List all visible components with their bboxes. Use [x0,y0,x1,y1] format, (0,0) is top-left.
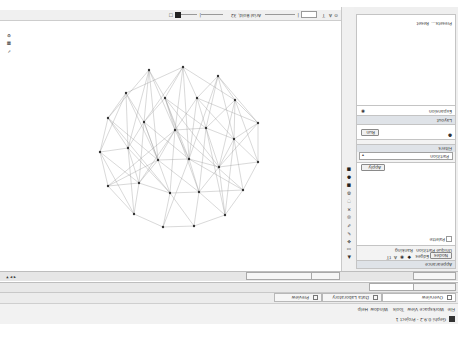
tab-appearance[interactable]: Appearance× [413,272,456,280]
graph-edge[interactable] [170,130,175,193]
graph-node[interactable] [198,191,200,193]
graph-edge[interactable] [163,193,170,227]
graph-node[interactable] [182,66,184,68]
graph-edge[interactable] [134,183,139,214]
pencil-icon[interactable]: ✎ [346,230,351,235]
graph-node[interactable] [125,92,127,94]
filter-combo[interactable]: Partition ▾ [359,152,453,160]
graph-node[interactable] [107,185,109,187]
center-icon[interactable]: ⊙ [334,13,338,18]
graph-edge[interactable] [158,160,199,192]
graph-edge[interactable] [149,70,175,130]
font-size-icon[interactable]: A [329,13,332,18]
graph-canvas[interactable]: ✓ ▦ ⚙ [0,21,341,271]
brush-icon[interactable]: ✐ [346,222,351,227]
layout-algorithm-row[interactable]: Expansion ◉ [357,105,455,115]
label-color-icon[interactable]: A [394,255,397,260]
color-swatch[interactable] [175,12,181,18]
hierarchy-icon[interactable]: ■ [346,166,351,171]
graph-edge[interactable] [243,162,258,190]
graph-edge[interactable] [158,159,189,160]
graph-node[interactable] [127,147,129,149]
graph-edge[interactable] [219,162,258,167]
font-size-slider[interactable] [181,14,197,15]
graph-edge[interactable] [108,130,175,186]
screenshot-icon[interactable]: ▦ [7,41,11,46]
palette-icon[interactable] [446,236,452,242]
graph-edge[interactable] [199,192,225,215]
label-toggle-icon[interactable]: T [322,13,325,18]
graph-edge[interactable] [206,128,234,139]
drag-icon[interactable]: ✥ [346,238,351,243]
graph-edge[interactable] [128,70,149,148]
graph-edge[interactable] [100,152,134,214]
graph-node[interactable] [193,225,195,227]
graph-edge[interactable] [163,159,189,227]
tab-workspace-2[interactable]: Workspace 2× [369,283,414,291]
graph-edge[interactable] [219,123,258,167]
shortest-path-icon[interactable]: ✕ [346,206,351,211]
graph-node[interactable] [242,189,244,191]
menu-view[interactable]: View [407,307,418,312]
edge-icon[interactable]: ● [346,174,351,179]
graph-edge[interactable] [235,100,258,123]
graph-edge[interactable] [158,130,175,160]
size-icon[interactable]: ◎ [346,214,351,219]
graph-edge[interactable] [126,93,144,122]
info-icon[interactable]: ◉ [361,109,365,114]
settings-icon[interactable]: ⚙ [7,33,11,38]
graph-edge[interactable] [175,128,206,130]
graph-edge[interactable] [199,190,243,192]
graph-node[interactable] [164,97,166,99]
edge-weight-field[interactable] [301,11,317,18]
graph-edge[interactable] [219,139,234,167]
slider-knob-icon[interactable]: | [297,13,299,18]
graph-node[interactable] [143,121,145,123]
graph-visualization[interactable] [0,21,341,271]
tab-preview[interactable]: Preview [274,293,322,302]
graph-node[interactable] [107,117,109,119]
graph-edge[interactable] [100,118,108,152]
graph-node[interactable] [196,97,198,99]
menu-help[interactable]: Help [358,307,368,312]
graph-edge[interactable] [108,118,128,148]
graph-node[interactable] [233,138,235,140]
graph-edge[interactable] [183,67,189,159]
graph-node[interactable] [217,75,219,77]
tab-workspace-1[interactable]: Workspace 1× [411,283,456,291]
slider-knob-icon[interactable]: | [199,13,201,18]
graph-edge[interactable] [100,152,139,183]
heatmap-icon[interactable]: ◌ [346,198,351,203]
graph-node[interactable] [162,226,164,228]
mode-ranking[interactable]: Ranking [395,248,413,253]
mode-partition[interactable]: Partition [416,248,435,253]
selection-icon[interactable]: ▲ [346,254,351,259]
graph-node[interactable] [188,158,190,160]
graph-edge[interactable] [194,215,225,226]
color-icon[interactable]: ◆ [408,255,411,260]
graph-edge[interactable] [100,148,128,152]
edit-icon[interactable]: ◍ [346,190,351,195]
graph-edge[interactable] [163,226,194,227]
size-icon[interactable]: ◉ [400,255,404,260]
label-color-icon[interactable]: □ [169,13,173,18]
graph-node[interactable] [174,129,176,131]
tab-random-graph-project[interactable]: Random Graph Project× [246,272,312,280]
menu-tools[interactable]: Tools [393,307,404,312]
graph-node[interactable] [148,69,150,71]
graph-edge[interactable] [108,70,149,118]
tab-scroll-controls[interactable]: ◂ ▸ ▾ [0,272,18,281]
graph-node[interactable] [234,99,236,101]
graph-edge[interactable] [194,192,199,226]
graph-edge[interactable] [144,70,149,122]
graph-edge[interactable] [165,67,183,98]
graph-edge[interactable] [206,76,218,128]
graph-node[interactable] [138,182,140,184]
target-nodes[interactable]: Nodes [430,252,452,259]
graph-node[interactable] [257,122,259,124]
target-edges[interactable]: Edges [415,254,429,259]
graph-edge[interactable] [206,128,219,167]
graph-edge[interactable] [139,98,197,183]
graph-edge[interactable] [183,67,235,100]
graph-edge[interactable] [134,214,163,227]
